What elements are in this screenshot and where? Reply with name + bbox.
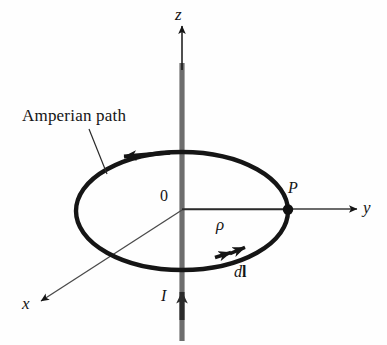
dl-l-part: l <box>242 263 246 280</box>
dl-arrow-first <box>215 253 231 258</box>
point-p-label: P <box>288 180 298 196</box>
radius-label-rho: ρ <box>216 216 224 233</box>
dl-element-label: dl <box>234 264 246 280</box>
loop-direction-arrow <box>124 153 170 157</box>
dl-d-part: d <box>234 263 242 280</box>
y-axis-label: y <box>363 199 371 216</box>
dl-arrow-second <box>230 247 245 253</box>
amperian-path-label: Amperian path <box>22 107 126 124</box>
point-p-marker <box>283 204 293 214</box>
diagram-canvas <box>0 0 387 345</box>
origin-label: 0 <box>160 188 168 204</box>
leader-line-amperian <box>89 129 107 174</box>
physics-diagram-amperian-path: z y x Amperian path 0 ρ P I dl <box>0 0 387 345</box>
z-axis-label: z <box>175 6 182 23</box>
x-axis-label: x <box>22 295 30 312</box>
current-label: I <box>161 288 166 304</box>
